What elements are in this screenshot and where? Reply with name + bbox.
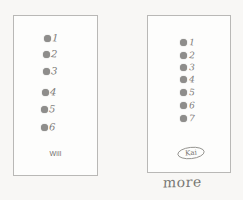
dot-row: 2 bbox=[43, 49, 57, 59]
handwritten-numeral: 1 bbox=[51, 33, 60, 43]
handwritten-numeral: 3 bbox=[50, 66, 59, 76]
dot-row: 4 bbox=[42, 87, 56, 97]
handwritten-numeral: 6 bbox=[48, 122, 57, 132]
dot-row: 3 bbox=[43, 66, 57, 76]
dot-row: 1 bbox=[180, 38, 195, 47]
dot-row: 7 bbox=[180, 114, 195, 123]
filled-dot-icon bbox=[180, 64, 187, 71]
dot-row: 3 bbox=[180, 63, 195, 72]
handwritten-numeral: 5 bbox=[48, 104, 57, 114]
filled-dot-icon bbox=[41, 106, 48, 113]
dot-row: 6 bbox=[180, 101, 195, 110]
handwritten-numeral: 1 bbox=[188, 38, 195, 47]
card-left[interactable]: 1 2 3 4 5 6 Will bbox=[13, 15, 98, 176]
filled-dot-icon bbox=[180, 89, 187, 96]
handwritten-numeral: 6 bbox=[188, 101, 195, 110]
handwritten-numeral: 3 bbox=[188, 63, 195, 72]
dot-row: 5 bbox=[180, 88, 195, 97]
filled-dot-icon bbox=[180, 115, 187, 122]
handwritten-numeral: 2 bbox=[50, 49, 59, 59]
dot-row: 4 bbox=[180, 75, 195, 84]
handwritten-numeral: 2 bbox=[188, 51, 195, 60]
dot-row: 6 bbox=[41, 122, 55, 132]
filled-dot-icon bbox=[180, 102, 187, 109]
dot-row: 1 bbox=[44, 33, 58, 43]
caption-more: more bbox=[163, 173, 202, 190]
handwritten-comparison-scene: 1 2 3 4 5 6 Will bbox=[0, 0, 243, 200]
filled-dot-icon bbox=[44, 35, 51, 42]
handwritten-numeral: 4 bbox=[188, 75, 195, 84]
handwritten-numeral: 5 bbox=[188, 88, 195, 97]
dot-row: 2 bbox=[180, 51, 195, 60]
handwritten-numeral: 4 bbox=[49, 87, 58, 97]
card-right-name-label: Kai bbox=[176, 147, 207, 159]
dot-row: 5 bbox=[41, 104, 55, 114]
card-right-name-label-group: Kai bbox=[176, 146, 206, 160]
filled-dot-icon bbox=[41, 124, 48, 131]
filled-dot-icon bbox=[42, 89, 49, 96]
filled-dot-icon bbox=[43, 68, 50, 75]
handwritten-numeral: 7 bbox=[188, 114, 195, 123]
card-right[interactable]: 1 2 3 4 5 6 bbox=[147, 15, 231, 173]
filled-dot-icon bbox=[180, 52, 187, 59]
filled-dot-icon bbox=[180, 76, 187, 83]
card-left-name-label: Will bbox=[14, 150, 97, 157]
filled-dot-icon bbox=[180, 39, 187, 46]
filled-dot-icon bbox=[43, 51, 50, 58]
